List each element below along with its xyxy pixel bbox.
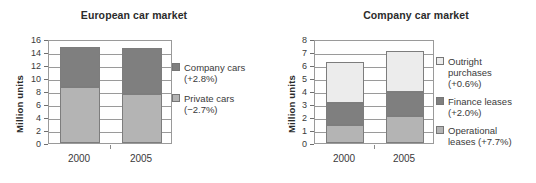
y-tick-label: 10 — [31, 74, 41, 84]
bar-segment — [386, 116, 424, 143]
legend-label: Private cars (−2.7%) — [184, 93, 268, 115]
plot-area-left — [48, 40, 172, 144]
bar-segment — [326, 103, 364, 125]
y-tick-label: 0 — [36, 139, 41, 149]
chart-panel-company-car-market: Company car market Million units 0123456… — [268, 0, 536, 183]
bar-2000 — [60, 39, 100, 143]
legend-item[interactable]: Outright purchases (+0.6%) — [436, 56, 536, 89]
chart-title-left: European car market — [0, 9, 268, 21]
y-tick-label: 1 — [302, 126, 307, 136]
y-tick-label: 8 — [36, 87, 41, 97]
legend-swatch-icon — [436, 126, 444, 134]
y-tick-label: 4 — [36, 113, 41, 123]
x-tick-mark — [374, 145, 375, 149]
y-tick-label: 3 — [302, 100, 307, 110]
legend-item[interactable]: Operational leases (+7.7%) — [436, 125, 536, 147]
legend-label: Finance leases (+2.0%) — [448, 96, 512, 118]
y-tick-label: 5 — [302, 74, 307, 84]
x-tick-label: 2005 — [117, 153, 165, 164]
x-tick-label: 2005 — [380, 153, 428, 164]
y-tick-label: 2 — [302, 113, 307, 123]
bar-segment — [122, 48, 162, 94]
bar-segment — [60, 47, 100, 87]
y-tick-label: 0 — [302, 139, 307, 149]
bar-2005 — [386, 39, 424, 143]
legend-item[interactable]: Finance leases (+2.0%) — [436, 96, 536, 118]
chart-panel-european-car-market: European car market Million units 024681… — [0, 0, 268, 183]
bar-segment — [60, 87, 100, 143]
chart-title-right: Company car market — [268, 9, 536, 21]
y-axis-title-left: Million units — [14, 75, 25, 133]
bar-2000 — [326, 39, 364, 143]
legend-swatch-icon — [172, 63, 180, 71]
legend-label: Operational leases (+7.7%) — [448, 125, 512, 147]
bar-segment — [326, 125, 364, 143]
x-tick-label: 2000 — [55, 153, 103, 164]
y-tick-label: 4 — [302, 87, 307, 97]
legend-swatch-icon — [172, 94, 180, 102]
legend-label: Outright purchases (+0.6%) — [448, 56, 492, 89]
legend-item[interactable]: Private cars (−2.7%) — [172, 93, 268, 115]
legend-label: Company cars (+2.8%) — [184, 62, 245, 84]
legend-item[interactable]: Company cars (+2.8%) — [172, 62, 268, 84]
legend-swatch-icon — [436, 57, 444, 65]
plot-area-right — [314, 40, 434, 144]
y-tick-label: 16 — [31, 35, 41, 45]
x-tick-mark — [110, 145, 111, 149]
figure-root: European car market Million units 024681… — [0, 0, 536, 183]
bar-segment — [326, 62, 364, 102]
y-tick-label: 14 — [31, 48, 41, 58]
y-tick-label: 7 — [302, 48, 307, 58]
y-tick-label: 2 — [36, 126, 41, 136]
y-tick-label: 12 — [31, 61, 41, 71]
y-tick-label: 8 — [302, 35, 307, 45]
bar-2005 — [122, 39, 162, 143]
bar-segment — [386, 92, 424, 116]
y-axis-title-right: Million units — [286, 75, 297, 133]
bar-segment — [386, 51, 424, 92]
bar-segment — [122, 94, 162, 143]
y-tick-label: 6 — [36, 100, 41, 110]
legend-swatch-icon — [436, 97, 444, 105]
x-tick-label: 2000 — [320, 153, 368, 164]
y-tick-label: 6 — [302, 61, 307, 71]
